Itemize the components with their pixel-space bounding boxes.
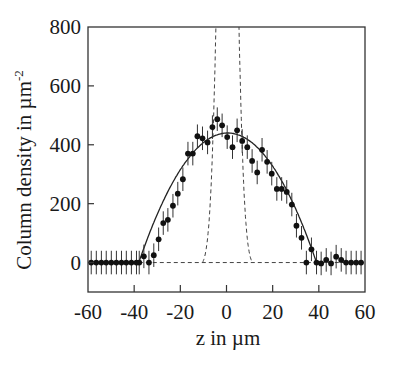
x-tick-label: -20 [166, 300, 194, 324]
data-point [328, 261, 334, 267]
data-point [210, 124, 216, 130]
x-tick-label: 20 [262, 300, 283, 324]
y-tick-label: 0 [71, 251, 82, 275]
plot-frame [88, 27, 365, 292]
data-point [323, 257, 329, 263]
data-point [289, 202, 295, 208]
data-point [294, 223, 300, 229]
y-axis-label: Column density in µm-2 [11, 70, 36, 270]
y-tick-label: 400 [50, 133, 82, 157]
data-point [239, 138, 245, 144]
data-point [103, 260, 109, 266]
data-point [249, 158, 255, 164]
data-point [259, 147, 265, 153]
y-tick-label: 200 [50, 192, 82, 216]
data-point [128, 260, 134, 266]
thomas-fermi-fit-curve [139, 133, 317, 263]
data-point [156, 236, 162, 242]
data-point [93, 260, 99, 266]
data-point [358, 260, 364, 266]
x-axis-label: z in µm [196, 326, 261, 350]
data-point [318, 261, 324, 267]
x-tick-label: 40 [308, 300, 329, 324]
data-point [343, 260, 349, 266]
data-point [136, 260, 142, 266]
data-point [244, 144, 250, 150]
y-axis-ticks: 0200400600800 [50, 15, 95, 275]
y-tick-label: 800 [50, 15, 82, 39]
plot-area [88, 0, 364, 275]
data-point [299, 235, 305, 241]
x-tick-label: -40 [120, 300, 148, 324]
x-axis-ticks: -60-40-200204060 [74, 285, 376, 324]
data-point [348, 260, 354, 266]
data-point [175, 191, 181, 197]
data-point [333, 254, 339, 260]
data-point [224, 134, 230, 140]
x-tick-label: -60 [74, 300, 102, 324]
data-point [309, 246, 315, 252]
x-tick-label: 0 [221, 300, 232, 324]
data-point [284, 189, 290, 195]
data-point [264, 159, 270, 165]
data-point [190, 151, 196, 157]
data-point [269, 171, 275, 177]
data-point [141, 253, 147, 259]
data-point [219, 122, 225, 128]
data-point [214, 116, 220, 122]
x-tick-label: 60 [355, 300, 376, 324]
data-point [279, 186, 285, 192]
data-point [113, 260, 119, 266]
data-point [234, 127, 240, 133]
data-point [195, 133, 201, 139]
y-axis-label-text: Column density in µm [12, 81, 36, 270]
data-point [200, 135, 206, 141]
y-tick-label: 600 [50, 74, 82, 98]
data-point [108, 260, 114, 266]
data-point [170, 203, 176, 209]
data-point [254, 170, 260, 176]
data-point [151, 252, 157, 258]
data-point [123, 260, 129, 266]
column-density-chart: 0200400600800 -60-40-200204060 z in µm C… [0, 0, 398, 377]
data-point [180, 176, 186, 182]
data-point [165, 217, 171, 223]
data-point [146, 260, 152, 266]
data-point [230, 144, 236, 150]
data-point [205, 140, 211, 146]
y-axis-label-superscript: -2 [11, 70, 26, 81]
data-point [303, 260, 309, 266]
